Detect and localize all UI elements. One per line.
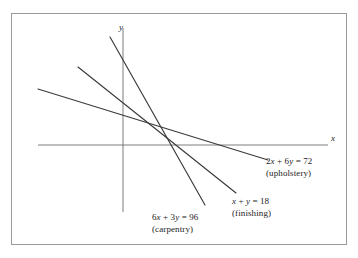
carpentry-equation: 6x + 3y = 96 — [152, 212, 198, 224]
y-axis-label: y — [119, 22, 123, 32]
x-axis-label: x — [331, 133, 335, 143]
upholstery-equation: 2x + 6y = 72 — [266, 156, 312, 168]
finishing-name: (finishing) — [232, 208, 271, 220]
upholstery-name: (upholstery) — [266, 168, 312, 180]
constraint-label-carpentry: 6x + 3y = 96 (carpentry) — [152, 212, 198, 235]
constraint-line-upholstery — [38, 89, 268, 160]
constraint-label-upholstery: 2x + 6y = 72 (upholstery) — [266, 156, 312, 179]
constraint-label-finishing: x + y = 18 (finishing) — [232, 196, 271, 219]
finishing-equation: x + y = 18 — [232, 196, 271, 208]
constraint-line-carpentry — [110, 37, 205, 205]
carpentry-name: (carpentry) — [152, 224, 198, 236]
constraint-line-finishing — [78, 67, 236, 193]
